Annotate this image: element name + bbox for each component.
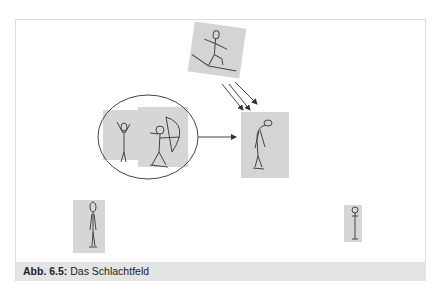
skier-arrows	[222, 82, 257, 110]
archer-group	[98, 95, 198, 179]
caption-label: Abb. 6.5:	[23, 265, 67, 277]
figure-caption: Abb. 6.5: Das Schlachtfeld	[16, 262, 426, 281]
hit-panel	[241, 112, 289, 178]
caption-text: Das Schlachtfeld	[70, 265, 149, 277]
standing-left-panel	[73, 200, 105, 253]
standing-right-panel	[344, 205, 362, 242]
battlefield-diagram	[0, 0, 442, 293]
skier-panel	[188, 22, 246, 79]
